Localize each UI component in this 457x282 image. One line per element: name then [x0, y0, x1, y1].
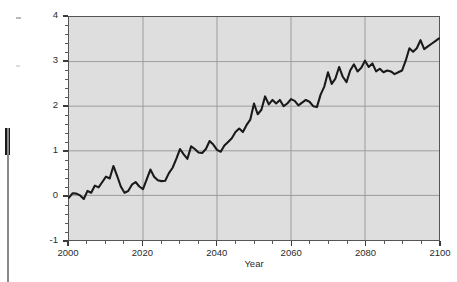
- y-axis-tick: [63, 60, 68, 61]
- x-axis-minor-tick: [421, 241, 422, 244]
- series-line-chart: [69, 17, 439, 240]
- x-axis-minor-tick: [384, 241, 385, 244]
- y-axis-minor-tick: [65, 88, 68, 89]
- y-axis-tick-label: 0: [36, 189, 58, 200]
- x-axis-minor-tick: [235, 241, 236, 244]
- x-axis-tick-label: 2060: [269, 247, 313, 258]
- x-axis-tick: [365, 241, 366, 246]
- x-axis-minor-tick: [254, 241, 255, 244]
- x-axis-tick: [216, 241, 217, 246]
- x-axis-tick: [291, 241, 292, 246]
- y-axis-minor-tick: [65, 97, 68, 98]
- data-series-line: [69, 38, 439, 199]
- y-axis-minor-tick: [65, 223, 68, 224]
- x-axis-minor-tick: [328, 241, 329, 244]
- y-axis-minor-tick: [65, 187, 68, 188]
- y-axis-tick: [63, 15, 68, 16]
- x-axis-minor-tick: [347, 241, 348, 244]
- y-axis-tick: [63, 105, 68, 106]
- y-axis-minor-tick: [65, 25, 68, 26]
- x-axis-tick: [142, 241, 143, 246]
- y-axis-tick: [63, 195, 68, 196]
- x-axis-minor-tick: [161, 241, 162, 244]
- y-axis-minor-tick: [65, 214, 68, 215]
- y-axis-minor-tick: [65, 133, 68, 134]
- x-axis-minor-tick: [198, 241, 199, 244]
- y-axis-minor-tick: [65, 142, 68, 143]
- y-axis-minor-tick: [65, 160, 68, 161]
- y-axis-minor-tick: [65, 43, 68, 44]
- x-axis-tick-label: 2020: [120, 247, 164, 258]
- figure-canvas: Temperature difference compared to the m…: [0, 0, 457, 282]
- x-axis-tick-label: 2040: [195, 247, 239, 258]
- x-axis-title: Year: [68, 258, 440, 269]
- y-axis-minor-tick: [65, 34, 68, 35]
- x-axis-minor-tick: [105, 241, 106, 244]
- scan-edge-artifact-mark-mid: [16, 65, 20, 67]
- y-axis-tick-label: 2: [36, 99, 58, 110]
- x-axis-minor-tick: [402, 241, 403, 244]
- x-axis-tick-label: 2100: [418, 247, 457, 258]
- x-axis-tick: [67, 241, 68, 246]
- y-axis-minor-tick: [65, 178, 68, 179]
- y-axis-minor-tick: [65, 124, 68, 125]
- x-axis-minor-tick: [272, 241, 273, 244]
- y-axis-minor-tick: [65, 115, 68, 116]
- x-axis-tick-label: 2000: [46, 247, 90, 258]
- y-axis-minor-tick: [65, 169, 68, 170]
- y-axis-minor-tick: [65, 52, 68, 53]
- y-axis-tick-label: 1: [36, 144, 58, 155]
- x-axis-minor-tick: [179, 241, 180, 244]
- y-axis-tick-label: 3: [36, 54, 58, 65]
- y-axis-minor-tick: [65, 70, 68, 71]
- scan-edge-artifact-mark-top: [16, 17, 21, 19]
- y-axis-minor-tick: [65, 79, 68, 80]
- plot-area: [68, 16, 440, 241]
- y-axis-minor-tick: [65, 205, 68, 206]
- y-axis-tick: [63, 150, 68, 151]
- x-axis-tick-label: 2080: [344, 247, 388, 258]
- x-axis-minor-tick: [123, 241, 124, 244]
- y-axis-minor-tick: [65, 232, 68, 233]
- y-axis-tick-label: 4: [36, 9, 58, 20]
- grid-layer: [69, 17, 439, 240]
- x-axis-tick: [439, 241, 440, 246]
- x-axis-minor-tick: [309, 241, 310, 244]
- x-axis-minor-tick: [86, 241, 87, 244]
- y-axis-tick-label: -1: [36, 234, 58, 245]
- scan-edge-artifact-line: [7, 128, 9, 282]
